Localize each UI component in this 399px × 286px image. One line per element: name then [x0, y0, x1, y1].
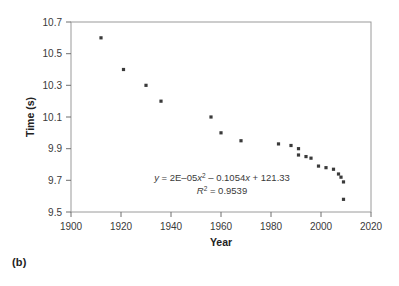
r-squared-annotation: R2 = 0.9539 [197, 184, 247, 196]
eq-part2: – 0.1054 [206, 172, 246, 183]
y-tick-group: 10.5 [43, 48, 71, 59]
x-tick-label: 1980 [260, 221, 283, 232]
y-tick-label: 9.5 [48, 207, 62, 218]
y-tick-label: 9.9 [48, 143, 62, 154]
y-axis: 9.5 9.7 9.9 10.1 10.3 10.5 [43, 17, 71, 218]
x-tick-label: 1900 [60, 221, 83, 232]
data-point [324, 166, 327, 169]
x-tick-group: 1900 [60, 212, 83, 232]
y-tick-group: 9.5 [48, 207, 71, 218]
eq-part1: = 2E–05 [159, 172, 197, 183]
data-point [337, 172, 340, 175]
y-tick-label: 9.7 [48, 175, 62, 186]
data-point [332, 168, 335, 171]
data-point [339, 176, 342, 179]
y-tick-label: 10.3 [43, 80, 63, 91]
x-tick-label: 1920 [110, 221, 133, 232]
data-point [297, 147, 300, 150]
data-point [122, 68, 125, 71]
r2-value: = 0.9539 [207, 185, 247, 196]
y-tick-label: 10.5 [43, 48, 63, 59]
data-point [289, 144, 292, 147]
x-axis-title: Year [210, 236, 232, 248]
x-tick-label: 2020 [360, 221, 383, 232]
x-tick-group: 2000 [310, 212, 333, 232]
y-tick-group: 9.7 [48, 175, 71, 186]
x-tick-group: 1960 [210, 212, 233, 232]
x-tick-group: 2020 [360, 212, 383, 232]
data-point [159, 100, 162, 103]
x-tick-label: 2000 [310, 221, 333, 232]
data-point [309, 157, 312, 160]
figure-panel: 9.5 9.7 9.9 10.1 10.3 10.5 [0, 0, 399, 286]
x-axis: 1900 1920 1940 1960 1980 2000 [60, 212, 383, 232]
data-point [209, 115, 212, 118]
plot-frame [71, 22, 371, 212]
y-tick-group: 10.1 [43, 112, 71, 123]
x-tick-group: 1920 [110, 212, 133, 232]
y-tick-group: 10.7 [43, 17, 71, 28]
scatter-chart: 9.5 9.7 9.9 10.1 10.3 10.5 [0, 0, 399, 286]
y-tick-label: 10.7 [43, 17, 63, 28]
x-tick-label: 1960 [210, 221, 233, 232]
data-point [342, 198, 345, 201]
data-point [317, 164, 320, 167]
data-point [277, 142, 280, 145]
x-tick-group: 1940 [160, 212, 183, 232]
data-point [297, 153, 300, 156]
eq-part3: + 121.33 [250, 172, 290, 183]
data-point [144, 84, 147, 87]
data-point [219, 131, 222, 134]
data-point [239, 139, 242, 142]
trendline-equation: y = 2E–05x2 – 0.1054x + 121.33 [153, 172, 290, 184]
x-tick-group: 1980 [260, 212, 283, 232]
data-point [304, 155, 307, 158]
y-tick-group: 10.3 [43, 80, 71, 91]
x-tick-label: 1940 [160, 221, 183, 232]
y-tick-label: 10.1 [43, 112, 63, 123]
data-point [99, 36, 102, 39]
panel-label: (b) [12, 256, 27, 268]
y-tick-group: 9.9 [48, 143, 71, 154]
data-point [342, 180, 345, 183]
y-axis-title: Time (s) [24, 97, 36, 137]
